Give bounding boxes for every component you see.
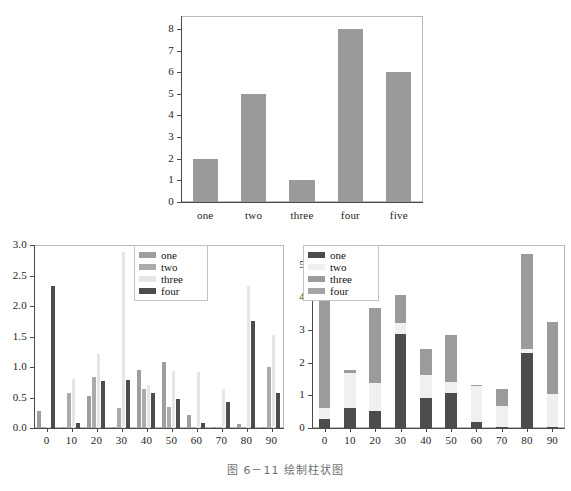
grouped-chart-bar xyxy=(187,415,191,428)
grouped-chart-bar xyxy=(276,393,280,428)
top-chart-y-tick xyxy=(177,51,181,52)
top-chart-y-tick xyxy=(177,94,181,95)
top-chart-y-tick xyxy=(177,115,181,116)
legend-item[interactable]: four xyxy=(139,285,202,297)
grouped-chart-y-tick xyxy=(30,245,34,246)
stacked-chart-y-tick-label: 2 xyxy=(292,356,305,368)
stacked-chart-x-tick xyxy=(375,428,376,432)
top-chart-y-tick-label: 0 xyxy=(155,195,174,207)
top-chart-y-tick xyxy=(177,137,181,138)
stacked-chart-segment xyxy=(344,373,356,408)
grouped-chart-bar xyxy=(137,370,141,428)
grouped-chart-bar xyxy=(162,362,166,428)
stacked-chart-x-tick xyxy=(552,428,553,432)
stacked-chart-y-tick xyxy=(308,363,312,364)
grouped-chart-bar xyxy=(97,354,101,428)
grouped-chart-x-tick-label: 90 xyxy=(252,434,292,446)
stacked-chart-segment xyxy=(471,385,483,387)
legend-swatch-three xyxy=(308,276,325,282)
grouped-chart-bar xyxy=(272,335,276,428)
top-chart-y-tick-label: 5 xyxy=(155,87,174,99)
legend-swatch-two xyxy=(139,264,156,270)
stacked-chart-segment xyxy=(521,349,533,353)
grouped-chart-bar xyxy=(151,393,155,428)
top-chart-bar xyxy=(289,180,314,202)
legend-label-three: three xyxy=(330,273,352,285)
stacked-chart-segment xyxy=(547,394,559,427)
grouped-chart-y-tick-label: 3.0 xyxy=(2,238,27,250)
stacked-chart-segment xyxy=(445,382,457,393)
top-chart-y-tick xyxy=(177,72,181,73)
stacked-chart-x-tick xyxy=(426,428,427,432)
legend-item[interactable]: one xyxy=(139,249,202,261)
grouped-chart-bar xyxy=(142,389,146,428)
legend-item[interactable]: three xyxy=(308,273,373,285)
stacked-chart-y-tick-label: 0 xyxy=(292,421,305,433)
grouped-chart-x-tick xyxy=(222,428,223,432)
stacked-chart-segment xyxy=(521,254,533,349)
stacked-chart-segment xyxy=(319,419,331,428)
grouped-chart-y-tick xyxy=(30,398,34,399)
grouped-chart-x-tick xyxy=(272,428,273,432)
top-chart-x-tick-label: five xyxy=(364,209,434,221)
stacked-chart-x-tick xyxy=(325,428,326,432)
legend-swatch-one xyxy=(308,252,325,258)
stacked-chart-y-tick xyxy=(308,395,312,396)
top-chart-y-tick-label: 8 xyxy=(155,22,174,34)
stacked-chart-x-tick xyxy=(350,428,351,432)
grouped-chart-y-tick xyxy=(30,306,34,307)
grouped-chart-bar xyxy=(147,385,151,428)
grouped-chart-y-axis-line xyxy=(34,245,35,428)
grouped-chart-y-tick-label: 2.0 xyxy=(2,299,27,311)
legend-swatch-two xyxy=(308,264,325,270)
grouped-chart-bar xyxy=(176,399,180,428)
stacked-chart-legend[interactable]: onetwothreefour xyxy=(303,245,379,301)
top-chart-y-tick-label: 2 xyxy=(155,152,174,164)
stacked-chart-segment xyxy=(395,295,407,323)
stacked-chart-segment xyxy=(547,322,559,394)
stacked-chart-segment xyxy=(395,334,407,428)
grouped-chart-bar xyxy=(117,408,121,428)
stacked-chart-segment xyxy=(420,349,432,374)
stacked-chart-y-tick-label: 3 xyxy=(292,323,305,335)
grouped-chart-y-tick-label: 0.5 xyxy=(2,391,27,403)
stacked-chart-segment xyxy=(420,398,432,428)
top-bar-chart: 012345678 onetwothreefourfive xyxy=(155,12,425,234)
stacked-chart-segment xyxy=(445,335,457,382)
legend-swatch-four xyxy=(139,288,156,294)
grouped-chart-bar xyxy=(251,321,255,428)
top-chart-y-tick-label: 3 xyxy=(155,130,174,142)
legend-item[interactable]: four xyxy=(308,285,373,297)
grouped-chart-y-tick xyxy=(30,337,34,338)
grouped-chart-y-tick-label: 1.5 xyxy=(2,330,27,342)
stacked-chart-segment xyxy=(369,411,381,428)
stacked-chart-segment xyxy=(319,295,331,409)
legend-swatch-one xyxy=(139,252,156,258)
grouped-chart-bar xyxy=(267,367,271,428)
grouped-chart-bar xyxy=(92,377,96,428)
grouped-chart-bar xyxy=(101,381,105,428)
stacked-chart-segment xyxy=(344,408,356,428)
top-chart-y-tick xyxy=(177,180,181,181)
grouped-chart-bar xyxy=(51,286,55,428)
grouped-chart-y-tick xyxy=(30,367,34,368)
grouped-chart-y-tick-label: 2.5 xyxy=(2,269,27,281)
stacked-chart-segment xyxy=(445,393,457,428)
legend-item[interactable]: one xyxy=(308,249,373,261)
grouped-chart-legend[interactable]: onetwothreefour xyxy=(134,245,208,301)
top-chart-bar xyxy=(386,72,411,202)
legend-label-two: two xyxy=(161,261,178,273)
legend-item[interactable]: three xyxy=(139,273,202,285)
stacked-chart-segment xyxy=(496,406,508,427)
legend-label-one: one xyxy=(330,249,346,261)
top-chart-y-tick-label: 6 xyxy=(155,65,174,77)
stacked-chart-x-tick xyxy=(476,428,477,432)
grouped-chart-bar xyxy=(226,402,230,428)
grouped-chart-bar xyxy=(72,379,76,428)
legend-item[interactable]: two xyxy=(139,261,202,273)
stacked-chart-x-tick-label: 90 xyxy=(532,434,571,446)
grouped-chart-x-tick xyxy=(147,428,148,432)
stacked-chart-segment xyxy=(369,383,381,411)
grouped-chart-x-tick xyxy=(97,428,98,432)
legend-item[interactable]: two xyxy=(308,261,373,273)
